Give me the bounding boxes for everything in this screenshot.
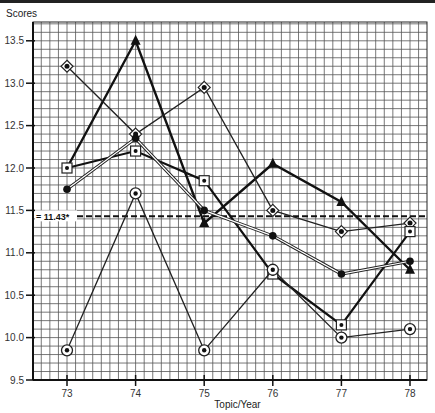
circle-marker-dot <box>202 348 206 352</box>
y-tick-label: 13.5 <box>5 35 25 46</box>
dot-marker <box>200 207 208 215</box>
square-marker-dot <box>339 323 343 327</box>
x-tick-label: 76 <box>267 388 279 399</box>
x-tick-label: 75 <box>199 388 211 399</box>
line-chart: 9.510.010.511.011.512.012.513.013.573747… <box>0 0 435 413</box>
dot-marker <box>63 185 71 193</box>
square-marker-dot <box>202 179 206 183</box>
diamond-marker-dot <box>339 229 344 234</box>
diamond-marker-dot <box>202 85 207 90</box>
x-tick-label: 73 <box>61 388 73 399</box>
diamond-marker-dot <box>270 208 275 213</box>
x-tick-label: 78 <box>404 388 416 399</box>
diamond-marker-dot <box>408 221 413 226</box>
reference-label: = 11.43* <box>36 212 70 222</box>
x-tick-label: 74 <box>130 388 142 399</box>
dot-marker <box>132 135 140 143</box>
circle-marker-dot <box>133 191 137 195</box>
y-tick-label: 11.0 <box>5 247 24 258</box>
square-marker-dot <box>408 230 412 234</box>
x-tick-label: 77 <box>336 388 348 399</box>
y-tick-label: 10.0 <box>5 332 25 343</box>
y-tick-label: 12.0 <box>5 163 25 174</box>
y-tick-label: 12.5 <box>5 120 25 131</box>
dot-marker <box>406 257 414 265</box>
y-tick-label: 10.5 <box>5 290 25 301</box>
y-tick-label: 11.5 <box>5 205 24 216</box>
diamond-marker-dot <box>65 64 70 69</box>
square-marker-dot <box>65 166 69 170</box>
dot-marker <box>269 232 277 240</box>
circle-marker-dot <box>271 268 275 272</box>
y-tick-label: 9.5 <box>10 375 24 386</box>
circle-marker-dot <box>339 335 343 339</box>
dot-marker <box>338 270 346 278</box>
y-tick-label: 13.0 <box>5 78 25 89</box>
triangle-marker <box>131 35 141 45</box>
square-marker-dot <box>134 149 138 153</box>
circle-marker-dot <box>65 348 69 352</box>
circle-marker-dot <box>408 327 412 331</box>
